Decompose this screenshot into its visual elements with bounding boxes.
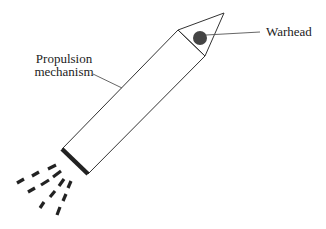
exhaust-dash [68, 181, 71, 188]
exhaust-plume [17, 165, 71, 215]
propulsion-label-line2: mechanism [34, 64, 93, 79]
missile-diagram: Warhead Propulsion mechanism [0, 0, 326, 229]
exhaust-dash [41, 180, 49, 185]
nozzle-base [62, 149, 88, 174]
warhead-label: Warhead [266, 24, 312, 39]
exhaust-dash [17, 179, 24, 183]
exhaust-dash [32, 172, 39, 176]
exhaust-dash [57, 207, 60, 215]
exhaust-dash [40, 202, 44, 208]
exhaust-dash [53, 171, 61, 177]
exhaust-dash [50, 191, 55, 197]
exhaust-dash [48, 165, 56, 169]
exhaust-dash [28, 188, 35, 192]
warhead-icon [193, 31, 207, 45]
exhaust-dash [59, 179, 64, 186]
warhead-leader-line [206, 32, 260, 35]
propulsion-leader-line [93, 74, 122, 88]
exhaust-dash [63, 194, 66, 201]
